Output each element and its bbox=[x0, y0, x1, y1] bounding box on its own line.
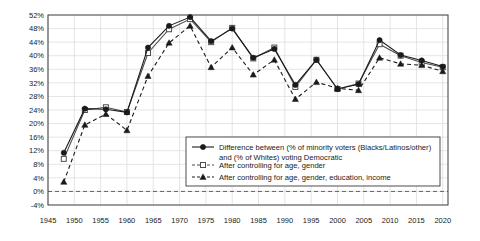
y-axis-tick-label: 36% bbox=[29, 65, 44, 74]
legend-item-label: After controlling for age, gender, educa… bbox=[219, 173, 391, 182]
chart-legend: Difference between (% of minority voters… bbox=[186, 137, 440, 186]
x-axis-tick-label: 1975 bbox=[198, 216, 215, 225]
y-axis-tick-label: 4% bbox=[33, 174, 44, 183]
x-axis-tick-label: 1990 bbox=[276, 216, 293, 225]
x-axis-tick-label: 1980 bbox=[224, 216, 241, 225]
x-axis-tick-label: 2000 bbox=[329, 216, 346, 225]
x-axis-tick-label: 1945 bbox=[40, 216, 57, 225]
chart-series bbox=[61, 14, 445, 155]
y-axis-tick-label: 52% bbox=[29, 11, 44, 20]
x-axis-tick-label: 2020 bbox=[434, 216, 451, 225]
x-axis-tick-label: 1965 bbox=[145, 216, 162, 225]
x-axis-tick-label: 1995 bbox=[303, 216, 320, 225]
x-axis-tick-label: 1970 bbox=[171, 216, 188, 225]
y-axis-tick-label: 16% bbox=[29, 133, 44, 142]
line-chart: -4%0%4%8%12%16%20%24%28%32%36%40%44%48%5… bbox=[0, 0, 480, 241]
x-axis-tick-label: 1955 bbox=[92, 216, 109, 225]
x-axis-tick-label: 2015 bbox=[408, 216, 425, 225]
legend-item-label: After controlling for age, gender bbox=[219, 161, 326, 170]
y-axis-tick-label: 40% bbox=[29, 51, 44, 60]
legend-item-label: Difference between (% of minority voters… bbox=[219, 143, 432, 152]
y-axis-tick-label: 24% bbox=[29, 106, 44, 115]
y-axis-tick-label: 44% bbox=[29, 38, 44, 47]
y-axis-tick-label: -4% bbox=[31, 201, 45, 210]
y-axis-tick-label: 12% bbox=[29, 146, 44, 155]
y-axis-tick-label: 32% bbox=[29, 79, 44, 88]
x-axis-tick-label: 1960 bbox=[119, 216, 136, 225]
x-axis-tick-label: 1950 bbox=[66, 216, 83, 225]
y-axis-tick-label: 48% bbox=[29, 24, 44, 33]
y-axis-tick-label: 8% bbox=[33, 160, 44, 169]
x-axis-tick-label: 2005 bbox=[355, 216, 372, 225]
chart-container: -4%0%4%8%12%16%20%24%28%32%36%40%44%48%5… bbox=[0, 0, 480, 241]
y-axis-tick-label: 28% bbox=[29, 92, 44, 101]
y-axis-tick-label: 20% bbox=[29, 119, 44, 128]
x-axis-tick-label: 1985 bbox=[250, 216, 267, 225]
y-axis-tick-label: 0% bbox=[33, 187, 44, 196]
x-axis-tick-label: 2010 bbox=[382, 216, 399, 225]
